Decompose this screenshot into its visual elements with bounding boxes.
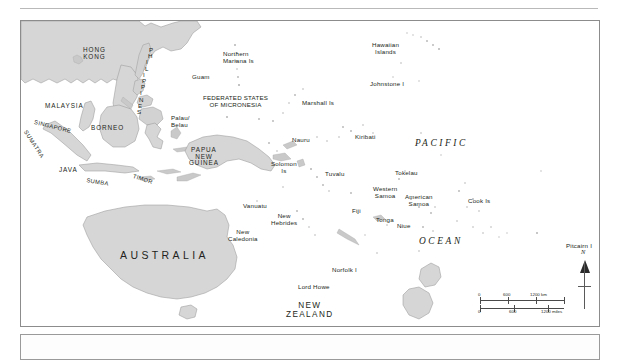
nz-north-island-shape — [419, 263, 441, 287]
java-shape — [79, 163, 139, 173]
nz-south-island-shape — [403, 287, 433, 319]
compass-rose: N — [575, 248, 595, 310]
sulawesi-shape — [145, 123, 163, 149]
label-nauru: Nauru — [292, 137, 310, 144]
label-palau-belau: Palau/ Belau — [171, 115, 190, 128]
scale-label-km-1200: 1200 km — [530, 292, 547, 297]
label-lord-howe: Lord Howe — [298, 284, 330, 291]
label-american-samoa: American Samoa — [405, 194, 433, 207]
flores-shape — [157, 169, 181, 174]
label-java: JAVA — [59, 167, 78, 174]
scale-axis-km — [480, 300, 564, 301]
scale-tick-km-end — [564, 297, 565, 304]
top-divider — [20, 8, 598, 9]
label-borneo: BORNEO — [91, 125, 124, 132]
timor-shape — [177, 173, 201, 181]
label-fiji: Fiji — [352, 208, 361, 215]
label-northern-mariana-is: Northern Mariana Is — [223, 51, 254, 64]
label-ocean: OCEAN — [419, 237, 463, 247]
map-frame: HONG KONG PHILIPPINES MALAYSIA SINGAPORE… — [20, 20, 600, 327]
scale-label-km-0: 0 — [478, 292, 480, 297]
label-solomon-is: Solomon Is — [271, 161, 297, 174]
label-malaysia: MALAYSIA — [45, 103, 84, 110]
tasmania-shape — [179, 305, 197, 319]
label-niue: Niue — [397, 223, 411, 230]
label-western-samoa: Western Samoa — [373, 186, 397, 199]
scale-label-mi-600: 600 — [509, 309, 516, 314]
label-federated-states-of-micronesia: FEDERATED STATES OF MICRONESIA — [203, 95, 268, 108]
new-caledonia-shape — [337, 229, 359, 245]
label-vanuatu: Vanuatu — [243, 203, 267, 210]
compass-north-label: N — [581, 248, 585, 255]
hawaii-dots — [392, 32, 440, 77]
bougainville-shape — [297, 159, 305, 167]
label-guam: Guam — [192, 74, 210, 81]
label-new-zealand: NEW ZEALAND — [286, 301, 334, 320]
map-vector-layer — [21, 21, 597, 324]
label-papua-new-guinea: PAPUA NEW GUINEA — [189, 147, 219, 167]
bottom-caption-panel — [20, 334, 600, 360]
scale-tick-km-1200 — [536, 297, 537, 304]
scale-label-km-600: 600 — [503, 292, 510, 297]
map-canvas: HONG KONG PHILIPPINES MALAYSIA SINGAPORE… — [21, 21, 597, 324]
halmahera-shape — [171, 127, 181, 139]
label-australia: AUSTRALIA — [120, 250, 209, 261]
label-tuvalu: Tuvalu — [325, 171, 345, 178]
label-marshall-is: Marshall Is — [302, 100, 334, 107]
label-hong-kong: HONG KONG — [83, 47, 106, 60]
compass-crossbar — [578, 286, 591, 287]
label-norfolk-i: Norfolk I — [332, 267, 357, 274]
polynesia-dots — [350, 170, 538, 238]
scale-label-mi-0: 0 — [478, 309, 480, 314]
asia-mainland-shape — [21, 21, 201, 83]
scale-bar: 0 600 1200 km 0 600 1200 miles — [478, 289, 570, 313]
label-johnstone-i: Johnstone I — [370, 81, 404, 88]
label-pacific: PACIFIC — [415, 139, 468, 149]
label-new-caledonia: New Caledonia — [228, 229, 258, 242]
label-new-hebrides: New Hebrides — [271, 213, 297, 226]
scale-label-mi-1200: 1200 miles — [541, 309, 562, 314]
scale-tick-km-0 — [480, 297, 481, 304]
label-hawaiian-islands: Hawaiian Islands — [372, 42, 399, 55]
label-tokelau: Tokelau — [395, 170, 418, 177]
label-cook-is: Cook Is — [468, 198, 490, 205]
label-tonga: Tonga — [376, 217, 394, 224]
scale-tick-km-600 — [508, 297, 509, 304]
label-kiribati: Kiribati — [355, 134, 376, 141]
label-philippines: PHILIPPINES — [139, 47, 154, 115]
